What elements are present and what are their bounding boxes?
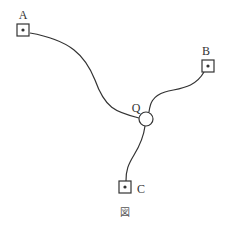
node-b-label: B bbox=[202, 44, 210, 58]
node-q-label: Q bbox=[132, 101, 141, 115]
edge-b-q bbox=[149, 72, 204, 112]
edge-c-q bbox=[126, 126, 145, 181]
network-diagram: A B C Q 図 bbox=[0, 0, 234, 233]
terminal-dot-icon bbox=[123, 185, 126, 188]
node-c: C bbox=[119, 181, 145, 196]
figure-caption: 図 bbox=[120, 207, 130, 218]
node-a: A bbox=[17, 8, 29, 36]
node-q: Q bbox=[132, 101, 153, 126]
node-b: B bbox=[202, 44, 214, 72]
edge-a-q bbox=[30, 33, 139, 118]
junction-circle-icon bbox=[139, 112, 153, 126]
node-c-label: C bbox=[137, 182, 145, 196]
terminal-dot-icon bbox=[21, 28, 24, 31]
node-a-label: A bbox=[19, 8, 28, 22]
terminal-dot-icon bbox=[206, 64, 209, 67]
